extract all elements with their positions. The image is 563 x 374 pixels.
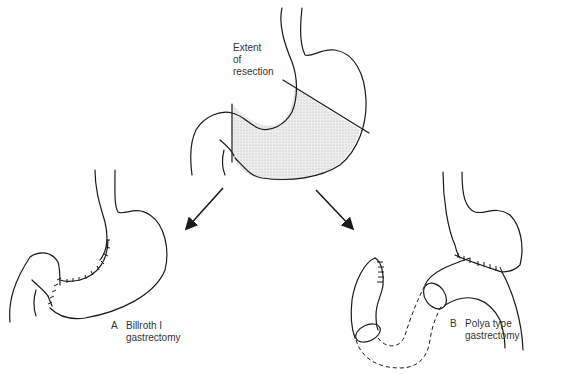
arrow-to-b — [316, 190, 352, 228]
label-line: Extent — [233, 42, 274, 54]
stomach-preop — [191, 8, 369, 181]
suture-line-a — [48, 240, 110, 304]
caption-a: Billroth I gastrectomy — [126, 320, 180, 344]
caption-b-letter: B — [450, 318, 457, 330]
caption-a-letter: A — [111, 320, 118, 332]
caption-b: Polya type gastrectomy — [465, 318, 519, 342]
caption-line: Polya type — [465, 318, 519, 330]
label-line: resection — [233, 66, 274, 78]
resection-area — [232, 88, 360, 181]
arrow-to-a — [187, 188, 223, 228]
suture-line-b — [458, 253, 502, 272]
caption-line: gastrectomy — [126, 332, 180, 344]
caption-line: gastrectomy — [465, 330, 519, 342]
label-line: of — [233, 54, 274, 66]
caption-line: Billroth I — [126, 320, 180, 332]
resection-label: Extent of resection — [233, 42, 274, 78]
billroth-i-stomach — [10, 170, 167, 322]
